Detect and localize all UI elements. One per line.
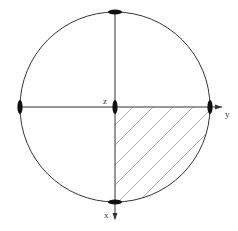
top-pivot-marker (108, 9, 122, 14)
circle-diagram (0, 0, 238, 231)
left-pivot-marker (17, 100, 22, 114)
right-pivot-marker (207, 100, 212, 114)
bottom-pivot-marker (108, 199, 122, 204)
x-axis-label: x (104, 211, 109, 220)
y-axis-arrow-icon (215, 105, 222, 110)
center-pivot-marker (112, 100, 117, 114)
y-axis-label: y (225, 110, 230, 119)
z-axis-label: z (103, 97, 107, 106)
x-axis-arrow-icon (113, 213, 118, 220)
